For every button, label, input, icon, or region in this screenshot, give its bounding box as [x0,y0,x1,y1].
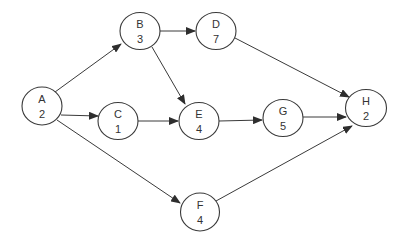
node-d: D 7 [196,13,236,50]
node-h: H 2 [346,90,387,127]
node-h-label: H [362,95,370,107]
edge-d-h [235,38,349,97]
node-g-label: G [279,105,288,117]
node-d-label: D [212,18,220,30]
node-c: C 1 [98,103,138,140]
node-a-label: A [38,93,46,105]
node-e-label: E [195,108,202,120]
node-b-label: B [136,18,143,30]
edge-a-b [55,44,121,92]
node-b-duration: 3 [137,33,143,45]
edge-e-g [219,120,262,121]
node-b: B 3 [120,13,160,50]
node-g: G 5 [263,100,303,137]
node-a-duration: 2 [39,108,45,120]
node-c-duration: 1 [115,123,121,135]
edge-f-h [216,126,352,201]
edge-a-c [61,115,98,116]
node-d-duration: 7 [213,33,219,45]
node-f-duration: 4 [197,214,203,226]
node-e-duration: 4 [196,123,202,135]
node-f-label: F [197,199,204,211]
node-f: F 4 [181,193,220,231]
node-e: E 4 [179,103,219,140]
node-h-duration: 2 [363,110,369,122]
network-diagram: A 2 B 3 C 1 D 7 E 4 F 4 G [0,0,404,240]
edge-b-e [152,47,185,104]
node-c-label: C [114,108,122,120]
nodes-layer: A 2 B 3 C 1 D 7 E 4 F 4 G [22,13,387,232]
node-g-duration: 5 [280,120,286,132]
node-a: A 2 [22,87,62,125]
